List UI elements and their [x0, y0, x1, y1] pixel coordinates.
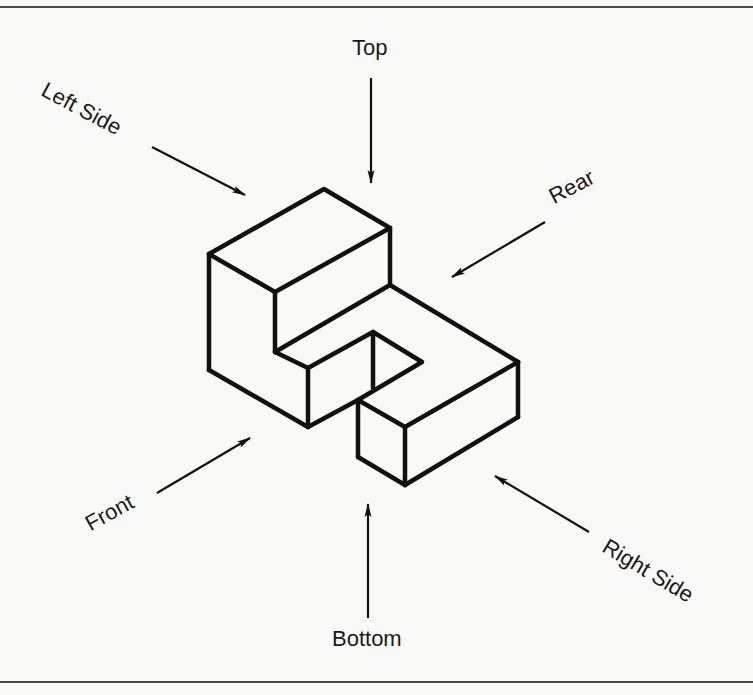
arrow-front	[157, 438, 250, 493]
isometric-object	[209, 189, 518, 485]
step-left-edge	[275, 352, 308, 368]
slab-back-edge	[390, 285, 518, 362]
tall-block-bottom-edge	[209, 370, 308, 427]
lower-bottom-edge	[308, 400, 358, 427]
slab-bottom-right-edge	[405, 417, 518, 485]
tall-block-top-face	[209, 189, 390, 292]
slab-top-front-edge	[405, 362, 518, 427]
notch-edges	[358, 332, 422, 400]
step-front-edge	[308, 332, 373, 368]
arrow-rear	[452, 222, 545, 277]
label-bottom: Bottom	[332, 628, 402, 650]
slab-top-left-edge	[358, 400, 405, 427]
arrow-left-side	[152, 147, 245, 195]
slab-bottom-left-edge	[358, 457, 405, 485]
arrow-right-side	[495, 476, 589, 532]
label-top: Top	[352, 37, 387, 59]
isometric-figure	[0, 0, 753, 695]
